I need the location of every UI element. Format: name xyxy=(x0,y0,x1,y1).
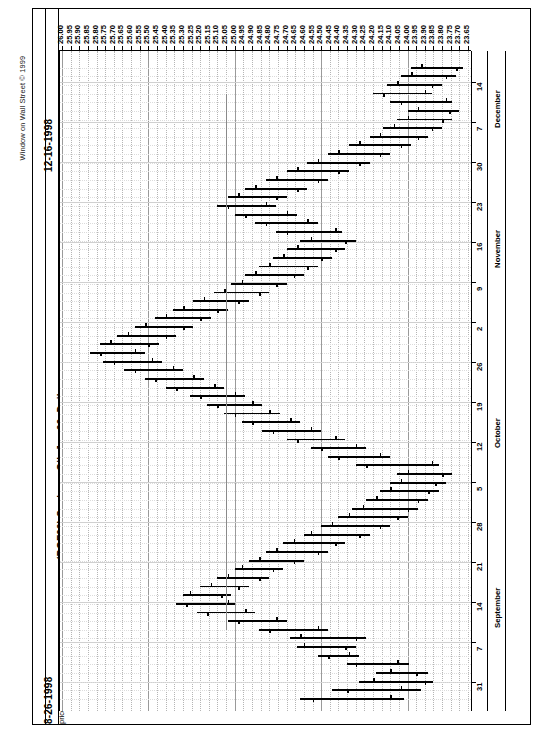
ohlc-bar xyxy=(249,560,304,562)
ohlc-open-tick xyxy=(335,228,337,232)
minor-row-gridline xyxy=(59,613,471,614)
date-tick xyxy=(471,122,476,123)
ohlc-close-tick xyxy=(380,153,382,157)
date-tick-label: 5 xyxy=(475,486,484,490)
ohlc-close-tick xyxy=(266,222,268,226)
ohlc-open-tick xyxy=(390,695,392,699)
ohlc-open-tick xyxy=(290,418,292,422)
minor-row-gridline xyxy=(59,440,471,441)
minor-row-gridline xyxy=(59,370,471,371)
minor-row-gridline xyxy=(59,163,471,164)
minor-row-gridline xyxy=(59,656,471,657)
price-tick-label: 25.45 xyxy=(151,25,160,44)
ohlc-open-tick xyxy=(183,306,185,310)
ohlc-close-tick xyxy=(259,577,261,581)
ohlc-close-tick xyxy=(449,110,451,114)
price-tick-label: 24.90 xyxy=(246,25,255,44)
date-tick xyxy=(471,322,476,323)
ohlc-close-tick xyxy=(416,672,418,676)
ohlc-close-tick xyxy=(338,456,340,460)
ohlc-close-tick xyxy=(228,205,230,209)
minor-row-gridline xyxy=(59,647,471,648)
ohlc-open-tick xyxy=(238,193,240,197)
ohlc-close-tick xyxy=(235,413,237,417)
ohlc-close-tick xyxy=(273,568,275,572)
ohlc-open-tick xyxy=(214,384,216,388)
ohlc-close-tick xyxy=(380,525,382,529)
ohlc-open-tick xyxy=(294,539,296,543)
date-tick-label: 31 xyxy=(475,682,484,690)
minor-row-gridline xyxy=(59,699,471,700)
ohlc-close-tick xyxy=(297,188,299,192)
ohlc-close-tick xyxy=(176,387,178,391)
price-tick-label: 23.65 xyxy=(462,25,471,44)
ohlc-close-tick xyxy=(287,231,289,235)
ohlc-close-tick xyxy=(221,594,223,598)
month-label: December xyxy=(493,90,502,128)
ohlc-close-tick xyxy=(318,179,320,183)
price-tick-label: 25.75 xyxy=(99,25,108,44)
ohlc-open-tick xyxy=(380,453,382,457)
date-tick-label: 19 xyxy=(475,402,484,410)
price-tick-label: 25.35 xyxy=(168,25,177,44)
ohlc-open-tick xyxy=(304,643,306,647)
date-tick-label: 12 xyxy=(475,442,484,450)
ohlc-close-tick xyxy=(359,534,361,538)
price-tick-label: 25.60 xyxy=(125,25,134,44)
price-tick-label: 24.75 xyxy=(272,25,281,44)
ohlc-open-tick xyxy=(311,237,313,241)
price-tick-label: 24.80 xyxy=(263,25,272,44)
ohlc-close-tick xyxy=(432,127,434,131)
ohlc-open-tick xyxy=(338,150,340,154)
ohlc-close-tick xyxy=(135,369,137,373)
ohlc-close-tick xyxy=(338,170,340,174)
minor-row-gridline xyxy=(59,232,471,233)
ohlc-close-tick xyxy=(418,136,420,140)
ohlc-open-tick xyxy=(235,392,237,396)
ohlc-close-tick xyxy=(328,655,330,659)
ohlc-open-tick xyxy=(397,660,399,664)
ohlc-close-tick xyxy=(183,326,185,330)
ohlc-close-tick xyxy=(238,620,240,624)
ohlc-close-tick xyxy=(456,67,458,71)
ohlc-open-tick xyxy=(356,444,358,448)
ohlc-open-tick xyxy=(432,461,434,465)
ohlc-close-tick xyxy=(238,586,240,590)
month-label: October xyxy=(493,418,502,448)
date-tick xyxy=(471,642,476,643)
price-tick-label: 24.05 xyxy=(393,25,402,44)
price-axis: 26.0025.9525.9025.8525.8025.7525.7025.65… xyxy=(59,8,471,51)
date-tick-label: 16 xyxy=(475,242,484,250)
ohlc-bar xyxy=(397,119,452,121)
date-gridline xyxy=(59,122,471,123)
minor-row-gridline xyxy=(59,543,471,544)
price-tick-label: 23.70 xyxy=(453,25,462,44)
ohlc-open-tick xyxy=(390,487,392,491)
tdst-stop-line xyxy=(226,94,227,630)
minor-row-gridline xyxy=(59,388,471,389)
ohlc-close-tick xyxy=(428,490,430,494)
ohlc-bar xyxy=(390,101,452,103)
minor-row-gridline xyxy=(59,379,471,380)
ohlc-close-tick xyxy=(335,542,337,546)
ohlc-close-tick xyxy=(207,612,209,616)
ohlc-close-tick xyxy=(401,101,403,105)
ohlc-bar xyxy=(376,672,428,674)
chart-page: Window on Wall Street © 1999 8-26-1998 1… xyxy=(0,0,539,732)
ohlc-close-tick xyxy=(276,283,278,287)
ohlc-bar xyxy=(311,447,366,449)
ohlc-open-tick xyxy=(318,159,320,163)
price-tick-label: 24.25 xyxy=(358,25,367,44)
ohlc-bar xyxy=(173,309,228,311)
ohlc-open-tick xyxy=(283,254,285,258)
ohlc-close-tick xyxy=(294,274,296,278)
minor-row-gridline xyxy=(59,638,471,639)
ohlc-close-tick xyxy=(166,335,168,339)
ohlc-close-tick xyxy=(100,352,102,356)
date-tick-label: 28 xyxy=(475,522,484,530)
header-band-dates xyxy=(32,8,46,725)
ohlc-close-tick xyxy=(200,317,202,321)
ohlc-close-tick xyxy=(335,248,337,252)
ohlc-close-tick xyxy=(273,430,275,434)
ohlc-open-tick xyxy=(204,297,206,301)
